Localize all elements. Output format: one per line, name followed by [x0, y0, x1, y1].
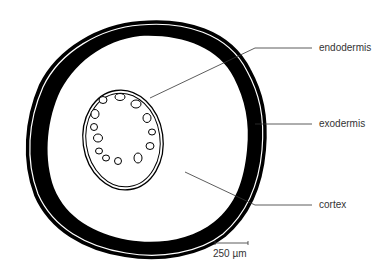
label-cortex: cortex — [319, 199, 346, 210]
label-exodermis: exodermis — [319, 118, 365, 129]
label-endodermis: endodermis — [319, 42, 371, 53]
scale-bar — [215, 241, 248, 245]
scale-bar-label: 250 µm — [213, 248, 247, 259]
